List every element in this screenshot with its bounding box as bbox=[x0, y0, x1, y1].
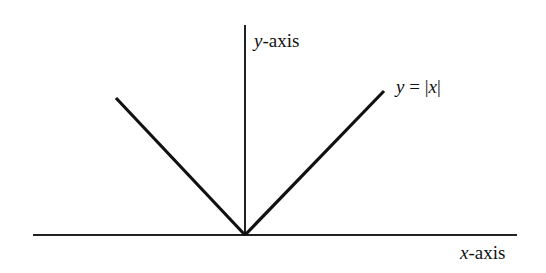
left-arm-line bbox=[116, 98, 245, 235]
curve-eq: = | bbox=[404, 76, 428, 97]
curve-label: y = |x| bbox=[396, 76, 441, 98]
x-axis-rest: -axis bbox=[468, 242, 505, 263]
curve-close: | bbox=[437, 76, 441, 97]
right-arm-line bbox=[245, 91, 384, 235]
y-axis-rest: -axis bbox=[262, 30, 299, 51]
y-axis-label: y-axis bbox=[254, 30, 299, 52]
x-axis-label: x-axis bbox=[460, 242, 505, 264]
curve-var: x bbox=[428, 76, 436, 97]
